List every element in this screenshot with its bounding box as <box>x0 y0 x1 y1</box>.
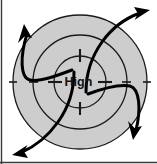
high-pressure-diagram: High <box>0 0 157 164</box>
diagram-canvas <box>0 0 157 164</box>
